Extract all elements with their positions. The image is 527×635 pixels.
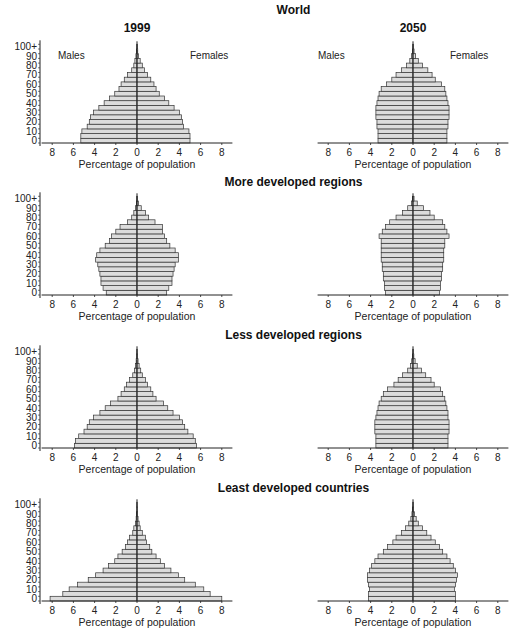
pyramid-least-developed-countries-2050: 864202468Percentage of population <box>318 499 509 628</box>
bar-female <box>413 73 432 78</box>
bar-male <box>378 406 413 411</box>
bar-male <box>94 110 137 115</box>
bar-male <box>381 257 413 262</box>
bar-female <box>137 253 178 258</box>
bar-female <box>413 592 455 597</box>
bar-female <box>413 229 447 234</box>
bar-male <box>368 596 413 601</box>
bar-male <box>401 531 413 536</box>
bar-female <box>413 559 450 564</box>
x-tick-label: 4 <box>177 299 183 310</box>
bar-male <box>122 549 137 554</box>
bar-female <box>137 276 172 281</box>
bar-male <box>383 272 413 277</box>
x-tick-label: 8 <box>49 299 55 310</box>
bar-female <box>137 225 162 230</box>
bar-male <box>388 545 413 550</box>
y-tick-label: 100+ <box>14 193 37 204</box>
x-tick-label: 4 <box>453 299 459 310</box>
bar-male <box>376 443 413 448</box>
pyramid-less-developed-regions-2050: 864202468Percentage of population <box>318 346 509 475</box>
x-tick-label: 4 <box>453 605 459 616</box>
bar-male <box>401 68 413 73</box>
bar-female <box>137 425 185 430</box>
bar-male <box>384 281 413 286</box>
bar-male <box>50 596 137 601</box>
bar-female <box>137 110 179 115</box>
bar-female <box>137 439 195 444</box>
bar-male <box>116 229 137 234</box>
x-tick-label: 6 <box>474 452 480 463</box>
bar-female <box>137 138 190 143</box>
bar-female <box>137 120 183 125</box>
bar-female <box>413 545 440 550</box>
bar-male <box>127 540 137 545</box>
x-tick-label: 8 <box>325 147 331 158</box>
bar-female <box>137 210 145 215</box>
bar-female <box>137 290 167 295</box>
pyramid-less-developed-regions-1999: 864202468Percentage of population0102030… <box>14 345 232 475</box>
bar-female <box>137 401 164 406</box>
bar-female <box>137 281 172 286</box>
bar-female <box>137 91 159 96</box>
bar-male <box>406 526 413 531</box>
x-tick-label: 6 <box>474 147 480 158</box>
bar-male <box>126 382 137 387</box>
bar-female <box>413 578 456 583</box>
bar-female <box>413 401 446 406</box>
bar-male <box>376 105 413 110</box>
bar-female <box>413 129 447 134</box>
bar-female <box>137 220 155 225</box>
bar-female <box>137 429 188 434</box>
bar-male <box>118 554 137 559</box>
bar-male <box>125 545 137 550</box>
bar-male <box>408 206 413 211</box>
bar-male <box>124 77 137 82</box>
bar-female <box>413 215 434 220</box>
bar-male <box>103 286 137 291</box>
bar-male <box>103 568 137 573</box>
bar-male <box>402 210 413 215</box>
bar-female <box>413 276 442 281</box>
bar-female <box>413 68 428 73</box>
pyramid-more-developed-regions-1999: 864202468Percentage of population0102030… <box>14 192 232 322</box>
bar-male <box>130 378 137 383</box>
x-tick-label: 4 <box>368 299 374 310</box>
bar-male <box>112 234 137 239</box>
bar-female <box>137 134 190 139</box>
bar-male <box>383 392 413 397</box>
bar-female <box>137 77 151 82</box>
bar-male <box>115 91 137 96</box>
y-tick-label: 90 <box>26 51 38 62</box>
bar-male <box>100 272 137 277</box>
bar-male <box>124 387 137 392</box>
y-tick-label: 10 <box>26 584 38 595</box>
bar-male <box>375 429 413 434</box>
bar-female <box>413 415 448 420</box>
pyramid-world-1999: 864202468Percentage of population0102030… <box>14 40 232 170</box>
y-tick-label: 0 <box>31 593 37 604</box>
bar-male <box>82 129 137 134</box>
bar-male <box>378 129 413 134</box>
x-tick-label: 8 <box>325 299 331 310</box>
x-tick-label: 0 <box>134 299 140 310</box>
bar-female <box>137 420 183 425</box>
bar-male <box>390 220 413 225</box>
x-tick-label: 0 <box>410 147 416 158</box>
bar-male <box>63 592 137 597</box>
bar-male <box>98 262 137 267</box>
y-tick-label: 90 <box>26 203 38 214</box>
y-tick-label: 10 <box>26 431 38 442</box>
bar-female <box>413 563 453 568</box>
bar-female <box>137 434 193 439</box>
bar-female <box>413 63 423 68</box>
x-axis-title: Percentage of population <box>79 310 196 322</box>
bar-male <box>368 582 413 587</box>
y-tick-label: 40 <box>26 556 38 567</box>
y-tick-label: 100+ <box>14 346 37 357</box>
bar-male <box>375 425 413 430</box>
x-tick-label: 8 <box>49 147 55 158</box>
bar-female <box>137 392 153 397</box>
y-tick-label: 30 <box>26 107 38 118</box>
bar-female <box>413 387 441 392</box>
